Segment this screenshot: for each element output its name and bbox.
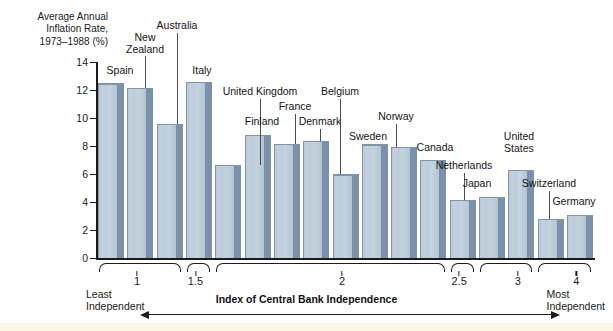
y-tick-label: 4 bbox=[48, 196, 88, 208]
bar-top-face bbox=[157, 124, 183, 125]
arrow-right-icon bbox=[551, 311, 560, 319]
bar-country-label: Italy bbox=[192, 65, 211, 77]
bar-top-face bbox=[186, 82, 212, 83]
group-brackets: 11.522.534 bbox=[96, 263, 595, 277]
bar-front-face bbox=[420, 161, 439, 258]
bar-side-face bbox=[498, 198, 505, 258]
bar-top-face bbox=[567, 215, 593, 216]
bar-top-face bbox=[479, 197, 505, 198]
bar-country-label: New Zealand bbox=[126, 32, 164, 55]
bar-country-label: Australia bbox=[157, 20, 198, 32]
bar-side-face bbox=[293, 145, 300, 258]
group-bracket bbox=[451, 263, 474, 272]
bar-side-face bbox=[469, 201, 476, 258]
bar-side-face bbox=[586, 216, 593, 258]
bar-top-face bbox=[303, 141, 329, 142]
bar-top-face bbox=[538, 219, 564, 220]
bar-side-face bbox=[205, 83, 212, 258]
bar-country-label: Denmark bbox=[299, 116, 342, 128]
label-leader-line bbox=[396, 124, 397, 147]
bar-country-label: Belgium bbox=[321, 86, 359, 98]
bar bbox=[362, 145, 381, 258]
least-independent-label: Least Independent bbox=[86, 288, 144, 312]
y-axis-tick-labels: 02468101214 bbox=[48, 62, 88, 258]
y-tick-mark bbox=[90, 258, 97, 259]
bar-country-label: United Kingdom bbox=[223, 86, 298, 98]
group-index-label: 2 bbox=[339, 275, 345, 287]
y-tick-label: 14 bbox=[48, 56, 88, 68]
bar-country-label: Japan bbox=[463, 178, 492, 190]
bar-country-label: Finland bbox=[245, 116, 279, 128]
bar-country-label: United States bbox=[504, 131, 534, 154]
bar-top-face bbox=[245, 135, 271, 136]
inflation-central-bank-independence-chart: Average Annual Inflation Rate, 1973–1988… bbox=[0, 0, 613, 331]
bar-country-label: Switzerland bbox=[522, 178, 576, 190]
bar-front-face bbox=[127, 89, 146, 258]
bar bbox=[567, 216, 586, 258]
bar-front-face bbox=[303, 142, 322, 258]
bar-side-face bbox=[234, 166, 241, 258]
y-tick-label: 12 bbox=[48, 84, 88, 96]
bar-side-face bbox=[146, 89, 153, 258]
y-axis-title: Average Annual Inflation Rate, 1973–1988… bbox=[4, 11, 108, 48]
x-axis-line bbox=[96, 258, 595, 260]
bar-front-face bbox=[479, 198, 498, 258]
bar bbox=[450, 201, 469, 258]
bar-top-face bbox=[98, 83, 124, 84]
bar-front-face bbox=[362, 145, 381, 258]
group-index-label: 4 bbox=[573, 275, 579, 287]
bar-side-face bbox=[439, 161, 446, 258]
bar-front-face bbox=[333, 175, 352, 258]
group-index-label: 3 bbox=[515, 275, 521, 287]
y-tick-label: 8 bbox=[48, 140, 88, 152]
arrow-left-icon bbox=[140, 311, 149, 319]
bar-top-face bbox=[333, 174, 359, 175]
bar bbox=[391, 148, 410, 258]
bar-top-face bbox=[215, 165, 241, 166]
bar-front-face bbox=[567, 216, 586, 258]
bar-side-face bbox=[410, 148, 417, 258]
bar-front-face bbox=[157, 125, 176, 258]
bar bbox=[303, 142, 322, 258]
bar bbox=[186, 83, 205, 258]
bar-top-face bbox=[274, 144, 300, 145]
group-index-label: 1 bbox=[134, 275, 140, 287]
bar-top-face bbox=[508, 170, 534, 171]
bar-top-face bbox=[450, 200, 476, 201]
bar bbox=[274, 145, 293, 258]
bar-country-label: Spain bbox=[107, 65, 134, 77]
bar bbox=[479, 198, 498, 258]
label-leader-line bbox=[549, 191, 550, 219]
label-leader-line bbox=[295, 114, 296, 144]
bar-country-label: Norway bbox=[378, 111, 414, 123]
bar-side-face bbox=[322, 142, 329, 258]
bar-front-face bbox=[274, 145, 293, 258]
bar-side-face bbox=[557, 220, 564, 258]
label-leader-line bbox=[145, 56, 146, 88]
bar-country-label: Sweden bbox=[349, 131, 387, 143]
group-bracket bbox=[187, 263, 210, 272]
y-tick-label: 10 bbox=[48, 112, 88, 124]
bar-front-face bbox=[98, 84, 117, 258]
bar-side-face bbox=[264, 136, 271, 258]
group-bracket bbox=[99, 263, 181, 272]
bar-country-label: France bbox=[279, 101, 312, 113]
bar-country-label: Germany bbox=[552, 196, 595, 208]
bar-front-face bbox=[215, 166, 234, 258]
label-leader-line bbox=[340, 99, 341, 174]
y-tick-label: 2 bbox=[48, 224, 88, 236]
group-bracket bbox=[216, 263, 444, 272]
bar-country-label: Netherlands bbox=[436, 160, 493, 172]
bar-side-face bbox=[176, 125, 183, 258]
bar bbox=[420, 161, 439, 258]
bar bbox=[333, 175, 352, 258]
bar-side-face bbox=[352, 175, 359, 258]
bar-front-face bbox=[391, 148, 410, 258]
most-independent-label: Most Independent bbox=[547, 288, 605, 312]
bar-front-face bbox=[450, 201, 469, 258]
bar-top-face bbox=[391, 147, 417, 148]
group-index-label: 2.5 bbox=[452, 275, 467, 287]
y-tick-label: 6 bbox=[48, 168, 88, 180]
bar-country-label: Canada bbox=[417, 142, 454, 154]
label-leader-line bbox=[177, 33, 178, 124]
